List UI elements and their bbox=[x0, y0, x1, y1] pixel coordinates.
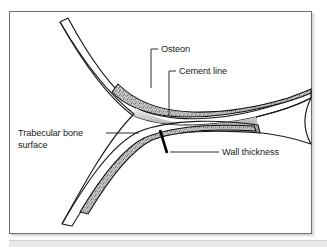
trabecular-bone-surface-label-line2: surface bbox=[18, 140, 47, 150]
cement-line-label: Cement line bbox=[179, 66, 227, 76]
trabecular-bone-surface-label-line1: Trabecular bone bbox=[18, 128, 83, 138]
figure-page: Osteon Cement line Trabecular bone surfa… bbox=[0, 0, 327, 250]
osteon-label: Osteon bbox=[161, 44, 190, 54]
figure-frame: Osteon Cement line Trabecular bone surfa… bbox=[9, 11, 312, 234]
osteon-leader-line bbox=[151, 49, 158, 88]
callout-cement-line: Cement line bbox=[169, 66, 227, 116]
bottom-band bbox=[9, 240, 327, 247]
callout-wall-thickness: Wall thickness bbox=[170, 147, 279, 157]
trabecular-bone-diagram: Osteon Cement line Trabecular bone surfa… bbox=[10, 12, 313, 235]
osteon-stipple-lower bbox=[80, 125, 256, 214]
callout-trabecular-bone-surface: Trabecular bone surface bbox=[18, 128, 139, 150]
wall-thickness-label: Wall thickness bbox=[222, 147, 279, 157]
